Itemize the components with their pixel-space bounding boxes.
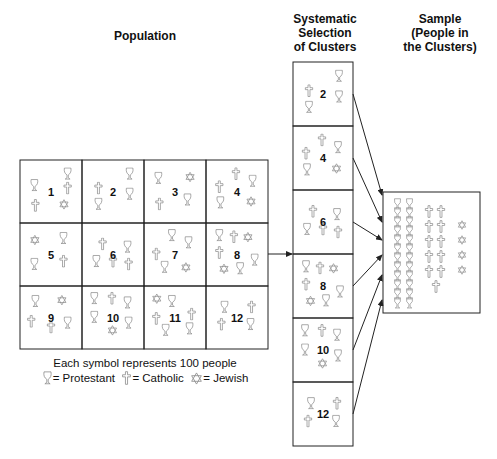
chalice-icon (306, 101, 313, 112)
cross-icon (232, 168, 239, 180)
cross-icon (64, 182, 71, 194)
cluster-label: 2 (320, 88, 326, 100)
cluster-label: 5 (48, 249, 54, 261)
cross-icon (108, 292, 115, 304)
cross-icon (425, 206, 432, 218)
cross-icon (437, 236, 444, 248)
star-of-david-icon (458, 221, 465, 230)
cross-icon (425, 266, 432, 278)
cluster-6: 6 (293, 190, 353, 254)
star-of-david-icon (244, 232, 252, 241)
cross-icon (304, 415, 311, 427)
cluster-label: 12 (231, 312, 243, 324)
cross-icon (425, 221, 432, 233)
cluster-label: 7 (172, 249, 178, 261)
arrow-cluster-10-to-sample (353, 275, 382, 350)
chalice-icon (124, 297, 131, 308)
chalice-icon (93, 255, 100, 266)
cross-icon (28, 315, 35, 327)
chalice-icon (126, 168, 133, 179)
chalice-icon (249, 175, 256, 186)
cross-icon (318, 134, 325, 146)
cross-icon (156, 198, 163, 210)
cross-icon (302, 147, 309, 159)
star-of-david-icon (220, 264, 228, 273)
cluster-12: 12 (293, 382, 353, 446)
chalice-icon (31, 258, 38, 269)
cluster-label: 10 (317, 344, 329, 356)
cross-icon (437, 206, 444, 218)
chalice-icon (336, 70, 343, 81)
chalice-icon (42, 371, 53, 385)
chalice-icon (304, 164, 311, 175)
arrows-to-sample (353, 94, 382, 414)
star-of-david-icon (58, 295, 66, 304)
cross-icon (60, 255, 67, 267)
arrow-cluster-12-to-sample (353, 300, 382, 414)
chalice-icon (334, 209, 341, 220)
chalice-icon (302, 325, 309, 336)
cross-icon (432, 281, 439, 293)
cluster-10: 10 (82, 286, 144, 349)
cross-icon (425, 251, 432, 263)
chalice-icon (302, 344, 309, 355)
cross-icon (305, 85, 312, 97)
chalice-icon (31, 180, 38, 191)
chalice-icon (64, 168, 71, 179)
star-of-david-icon (108, 326, 116, 335)
cross-icon (334, 226, 341, 238)
cross-icon (230, 231, 237, 243)
star-of-david-icon (190, 372, 203, 385)
sample-box (383, 192, 480, 313)
cluster-9: 9 (20, 286, 82, 349)
legend-caption: Each symbol represents 100 people (30, 356, 260, 371)
chalice-icon (333, 415, 340, 426)
cluster-label: 8 (320, 280, 326, 292)
legend-keys: = Protestant = Catholic = Jewish (30, 371, 260, 386)
legend-protestant: = Protestant (53, 372, 115, 384)
cross-icon (316, 262, 323, 274)
cross-icon (302, 278, 309, 290)
chalice-icon (95, 198, 102, 209)
cross-icon (437, 221, 444, 233)
cluster-label: 1 (48, 186, 54, 198)
cross-icon (318, 325, 325, 337)
chalice-icon (32, 295, 39, 306)
chalice-icon (237, 263, 244, 274)
cluster-8: 8 (293, 254, 353, 318)
chalice-icon (335, 350, 342, 361)
cluster-label: 10 (107, 312, 119, 324)
chalice-icon (304, 223, 311, 234)
cluster-7: 7 (144, 223, 206, 286)
cross-icon (32, 200, 39, 212)
cross-icon (216, 247, 223, 259)
cluster-label: 8 (234, 249, 240, 261)
selected-clusters-column: 24681012 (293, 62, 353, 446)
chalice-icon (162, 324, 169, 335)
chalice-icon (335, 142, 342, 153)
cross-icon (248, 301, 255, 313)
cross-icon (95, 182, 102, 194)
cross-icon (218, 318, 225, 330)
legend: Each symbol represents 100 people = Prot… (30, 356, 260, 386)
chalice-icon (308, 398, 315, 409)
cross-icon (121, 371, 132, 385)
population-grid: 123456789101112 (20, 160, 268, 349)
cluster-4: 4 (206, 160, 268, 223)
chalice-icon (168, 230, 175, 241)
cross-icon (437, 251, 444, 263)
star-of-david-icon (458, 236, 465, 245)
chalice-icon (155, 172, 162, 183)
cluster-11: 11 (144, 286, 206, 349)
cluster-label: 2 (110, 186, 116, 198)
chalice-icon (216, 230, 223, 241)
chalice-icon (217, 197, 224, 208)
cluster-1: 1 (20, 160, 82, 223)
legend-jewish: = Jewish (203, 372, 248, 384)
chalice-icon (251, 254, 258, 265)
cluster-5: 5 (20, 223, 82, 286)
star-of-david-icon (182, 263, 190, 272)
cluster-label: 6 (110, 249, 116, 261)
cross-icon (216, 181, 223, 193)
cross-icon (153, 248, 160, 260)
